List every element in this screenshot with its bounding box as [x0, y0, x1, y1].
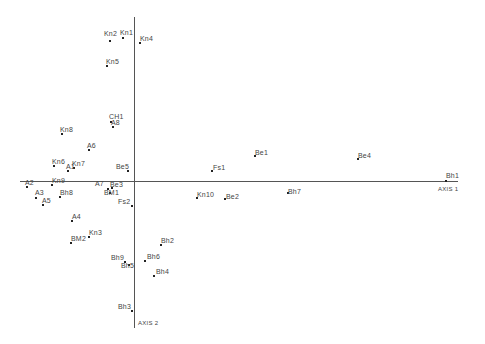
axis-1-line	[20, 181, 458, 182]
data-point-label: A1	[66, 163, 75, 171]
data-point-label: Bh9	[111, 254, 124, 262]
data-point-label: Bh7	[288, 188, 301, 196]
ordination-plot: AXIS 1 AXIS 2 Kn1Kn2Kn4Kn5CH1A8Kn8A6Kn6K…	[0, 0, 485, 344]
data-point-label: Fs1	[213, 164, 225, 172]
data-point-label: Be5	[116, 163, 129, 171]
data-point-label: BM1	[104, 189, 119, 197]
data-point-marker	[153, 275, 155, 277]
data-point-label: Bh1	[446, 172, 459, 180]
data-point-label: Bh8	[60, 189, 73, 197]
axis-1-label: AXIS 1	[438, 186, 458, 193]
data-point-label: Kn10	[197, 191, 214, 199]
data-point-label: Bh3	[118, 303, 131, 311]
data-point-marker	[122, 37, 124, 39]
data-point-label: Kn2	[104, 30, 117, 38]
data-point-label: A4	[72, 213, 81, 221]
data-point-label: Kn9	[52, 177, 65, 185]
data-point-label: A6	[87, 142, 96, 150]
data-point-label: Kn4	[140, 35, 153, 43]
data-point-label: Kn8	[60, 126, 73, 134]
data-point-label: Bh4	[156, 268, 169, 276]
data-point-label: Bh2	[161, 237, 174, 245]
data-point-label: Be1	[255, 149, 268, 157]
data-point-label: Fs2	[118, 198, 130, 206]
data-point-marker	[144, 260, 146, 262]
data-point-label: Kn1	[120, 29, 133, 37]
data-point-marker	[131, 310, 133, 312]
data-point-label: Bh5	[121, 262, 134, 270]
data-point-marker	[445, 180, 447, 182]
data-point-label: A2	[25, 179, 34, 187]
axis-2-line	[134, 17, 135, 328]
data-point-label: BM2	[71, 235, 86, 243]
data-point-label: A8	[111, 119, 120, 127]
data-point-label: Be4	[358, 152, 371, 160]
data-point-label: Kn5	[106, 58, 119, 66]
data-point-label: Kn6	[52, 158, 65, 166]
data-point-marker	[35, 197, 37, 199]
data-point-marker	[131, 205, 133, 207]
data-point-label: Kn3	[89, 229, 102, 237]
data-point-label: A5	[42, 197, 51, 205]
data-point-label: A7	[95, 180, 104, 188]
data-point-label: Be3	[110, 181, 123, 189]
data-point-label: Be2	[226, 193, 239, 201]
data-point-marker	[109, 40, 111, 42]
axis-2-label: AXIS 2	[138, 320, 158, 327]
data-point-label: Bh6	[147, 253, 160, 261]
data-point-label: A3	[35, 189, 44, 197]
